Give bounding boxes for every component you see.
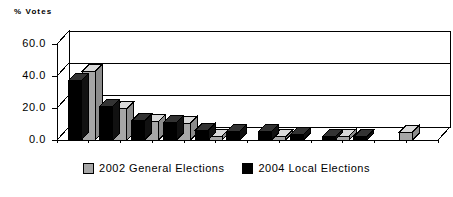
- bar-front-face: [354, 137, 367, 140]
- bar-front-face: [227, 131, 240, 140]
- y-axis-tick-label: 60.0: [2, 37, 46, 49]
- left-wall: [57, 31, 69, 140]
- legend-item: 2002 General Elections: [83, 162, 224, 174]
- bar-side-face: [113, 99, 120, 140]
- bar-front-face: [400, 132, 413, 140]
- legend-label: 2002 General Elections: [99, 162, 224, 174]
- bar-chart: % Votes 0.020.040.060.0 2002 General Ele…: [0, 0, 453, 197]
- bar-front-face: [290, 134, 303, 140]
- bar-front-face: [100, 106, 113, 140]
- y-axis-tick-label: 20.0: [2, 101, 46, 113]
- legend-label: 2004 Local Elections: [258, 162, 370, 174]
- y-axis-tick-label: 0.0: [2, 133, 46, 145]
- y-axis-tick-label: 40.0: [2, 69, 46, 81]
- bar-front-face: [163, 122, 176, 140]
- bar-side-face: [81, 74, 88, 140]
- gray-swatch: [83, 163, 94, 174]
- plot-area: [0, 18, 453, 143]
- bar-front-face: [322, 137, 335, 140]
- legend-item: 2004 Local Elections: [242, 162, 370, 174]
- black-swatch: [242, 163, 253, 174]
- bar-front-face: [259, 131, 272, 140]
- bar-front-face: [132, 121, 145, 140]
- chart-legend: 2002 General Elections2004 Local Electio…: [0, 162, 453, 174]
- y-axis-title: % Votes: [14, 7, 52, 16]
- bar-front-face: [195, 130, 208, 140]
- bar-front-face: [68, 81, 81, 140]
